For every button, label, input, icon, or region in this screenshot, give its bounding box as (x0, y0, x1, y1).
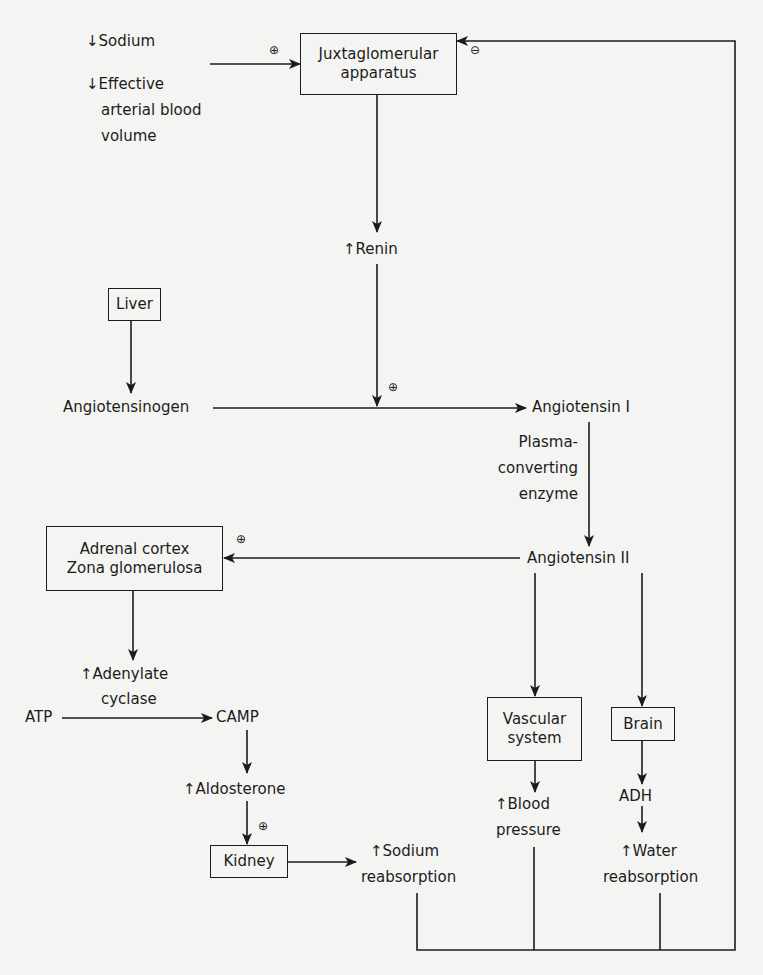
aldosterone-label: Aldosterone (196, 780, 286, 798)
water-reabsorption-line2: reabsorption (603, 868, 698, 887)
enzyme-line2: converting (480, 459, 578, 478)
up-arrow-icon: ↑ (370, 842, 383, 860)
plus-sign-icon: ⊕ (269, 44, 279, 56)
renin-node: ↑Renin (343, 240, 398, 259)
blood-pressure-label: Blood (508, 795, 550, 813)
kidney-box: Kidney (210, 845, 288, 878)
adenylate-cyclase-line1: ↑Adenylate (80, 665, 168, 684)
renin-label: Renin (356, 240, 398, 258)
aldosterone-node: ↑Aldosterone (183, 780, 285, 799)
up-arrow-icon: ↑ (80, 665, 93, 683)
adenylate-label: Adenylate (93, 665, 169, 683)
blood-pressure-line1: ↑Blood (495, 795, 550, 814)
water-reabsorption-label: Water (633, 842, 677, 860)
camp-label: CAMP (216, 708, 259, 727)
adrenal-cortex-box: Adrenal cortex Zona glomerulosa (46, 526, 223, 591)
up-arrow-icon: ↑ (343, 240, 356, 258)
adh-label: ADH (619, 787, 652, 806)
enzyme-line3: enzyme (500, 485, 578, 504)
brain-label: Brain (623, 715, 662, 734)
adrenal-line2: Zona glomerulosa (67, 559, 203, 578)
jga-line1: Juxtaglomerular (319, 45, 439, 64)
angiotensin2-label: Angiotensin II (527, 549, 629, 568)
minus-sign-icon: ⊖ (470, 44, 480, 56)
plus-sign-icon: ⊕ (388, 381, 398, 393)
liver-box: Liver (108, 288, 161, 321)
stimulus-volume-line2: arterial blood (101, 101, 202, 120)
angiotensin1-label: Angiotensin I (532, 398, 630, 417)
vascular-system-box: Vascular system (487, 697, 582, 761)
vascular-line1: Vascular (503, 710, 566, 729)
down-arrow-icon: ↓ (86, 32, 99, 50)
sodium-reabsorption-label: Sodium (383, 842, 440, 860)
juxtaglomerular-apparatus-box: Juxtaglomerular apparatus (300, 33, 457, 95)
stimulus-volume-line1: Effective (99, 75, 164, 93)
kidney-label: Kidney (223, 852, 274, 871)
water-reabsorption-line1: ↑Water (620, 842, 677, 861)
atp-label: ATP (25, 708, 52, 727)
up-arrow-icon: ↑ (620, 842, 633, 860)
jga-line2: apparatus (341, 64, 417, 83)
plus-sign-icon: ⊕ (236, 533, 246, 545)
blood-pressure-line2: pressure (496, 821, 561, 840)
brain-box: Brain (611, 707, 675, 741)
stimulus-volume-line3: volume (101, 127, 157, 146)
liver-label: Liver (116, 295, 153, 314)
stimulus-low-sodium: ↓Sodium (86, 32, 155, 51)
sodium-reabsorption-line2: reabsorption (361, 868, 456, 887)
vascular-line2: system (507, 729, 561, 748)
adenylate-cyclase-line2: cyclase (101, 690, 157, 709)
plus-sign-icon: ⊕ (258, 820, 268, 832)
adrenal-line1: Adrenal cortex (80, 540, 190, 559)
angiotensinogen-label: Angiotensinogen (63, 398, 189, 417)
up-arrow-icon: ↑ (183, 780, 196, 798)
down-arrow-icon: ↓ (86, 75, 99, 93)
stimulus-low-volume: ↓Effective (86, 75, 164, 94)
enzyme-line1: Plasma- (500, 433, 578, 452)
up-arrow-icon: ↑ (495, 795, 508, 813)
sodium-reabsorption-line1: ↑Sodium (370, 842, 439, 861)
diagram-connectors (0, 0, 763, 975)
stimulus-sodium-text: Sodium (99, 32, 156, 50)
